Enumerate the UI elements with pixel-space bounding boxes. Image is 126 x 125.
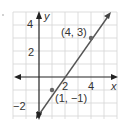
- stray-dot: [2, 14, 4, 16]
- tick-y-neg2: −2: [13, 100, 26, 112]
- tick-y-4: 4: [27, 18, 33, 30]
- y-axis: [36, 11, 42, 120]
- point-1-neg1: [50, 88, 54, 92]
- arrow-left-icon: [14, 74, 21, 80]
- x-axis-label: x: [110, 80, 117, 92]
- coordinate-plane: 4 y 2 (4, 3) 2 4 x (1, −1) −2: [0, 0, 126, 125]
- point-4-3: [89, 36, 93, 40]
- tick-y-2: 2: [28, 46, 34, 58]
- point-label-1-neg1: (1, −1): [55, 92, 87, 104]
- point-label-4-3: (4, 3): [61, 26, 87, 38]
- line-arrow-top-icon: [104, 12, 111, 19]
- tick-x-4: 4: [88, 80, 94, 92]
- tick-x-2: 2: [62, 80, 68, 92]
